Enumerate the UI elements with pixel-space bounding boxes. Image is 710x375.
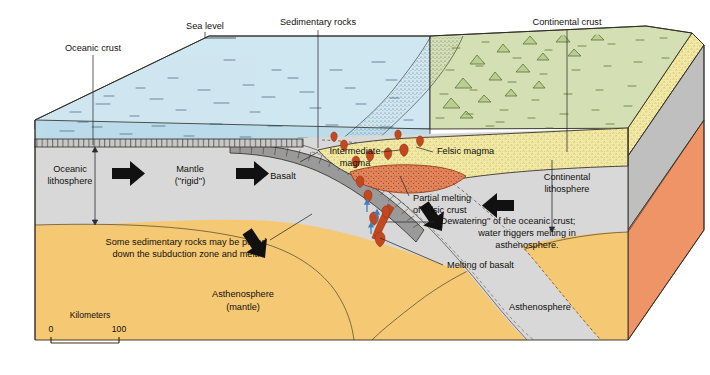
label-asthenosphere-left-line2: (mantle) [226, 302, 260, 312]
label-continental-lithosphere-line2: lithosphere [545, 184, 590, 194]
label-oceanic-lithosphere-line1: Oceanic [53, 164, 87, 174]
label-dewatering-line3: asthenosphere. [495, 240, 558, 250]
label-sediment-note-line2: down the subduction zone and melt. [112, 249, 259, 259]
subduction-zone-diagram: Sea level Sedimentary rocks Continental … [0, 0, 710, 375]
label-oceanic-crust: Oceanic crust [65, 43, 122, 53]
label-oceanic-lithosphere-line2: lithosphere [48, 176, 93, 186]
scale-bar-caption: Kilometers [70, 310, 111, 320]
label-mantle-line1: Mantle [176, 164, 204, 174]
label-melting-of-basalt: Melting of basalt [447, 260, 514, 270]
label-dewatering-line1: ''Dewatering'' of the oceanic crust; [437, 216, 575, 226]
label-sea-level: Sea level [186, 21, 224, 31]
label-intermediate-magma-line1: Intermediate [329, 146, 380, 156]
label-basalt: Basalt [270, 171, 296, 181]
scale-bar-min: 0 [49, 324, 54, 334]
scale-bar-max: 100 [112, 324, 127, 334]
label-mantle-line2: (''rigid'') [175, 176, 206, 186]
label-intermediate-magma-line2: magma [340, 158, 372, 168]
label-partial-melting-line1: Partial melting [413, 193, 471, 203]
label-sedimentary-rocks: Sedimentary rocks [280, 17, 356, 27]
label-felsic-magma: Felsic magma [437, 146, 495, 156]
oceanic-crust-band [35, 139, 303, 147]
label-continental-crust: Continental crust [533, 17, 602, 27]
label-asthenosphere-left-line1: Asthenosphere [212, 289, 274, 299]
label-dewatering-line2: water triggers melting in [477, 228, 576, 238]
block-diagram-svg: Sea level Sedimentary rocks Continental … [0, 0, 710, 375]
label-sediment-note-line1: Some sedimentary rocks may be pulled [106, 237, 267, 247]
label-partial-melting-line2: of felsic crust [413, 205, 467, 215]
label-continental-lithosphere-line1: Continental [544, 172, 590, 182]
label-asthenosphere-right: Asthenosphere [509, 302, 571, 312]
